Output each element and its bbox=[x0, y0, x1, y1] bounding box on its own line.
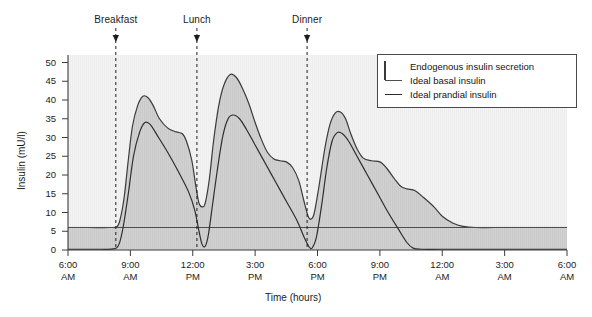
x-axis-ticks bbox=[68, 250, 567, 256]
y-tick-label: 20 bbox=[30, 169, 56, 180]
x-tick-ampm: PM bbox=[186, 271, 200, 282]
insulin-secretion-chart: Insulin (mU/l) Time (hours) 051015202530… bbox=[0, 0, 592, 317]
legend-item-endogenous: Endogenous insulin secretion bbox=[384, 60, 570, 73]
x-tick-label: 9:00PM bbox=[350, 259, 410, 282]
y-tick-label: 5 bbox=[30, 225, 56, 236]
x-tick-time: 12:00 bbox=[430, 259, 454, 270]
x-tick-label: 6:00AM bbox=[38, 259, 98, 282]
y-tick-label: 50 bbox=[30, 57, 56, 68]
x-tick-time: 6:00 bbox=[308, 259, 327, 270]
x-tick-ampm: PM bbox=[248, 271, 262, 282]
y-tick-label: 0 bbox=[30, 244, 56, 255]
y-tick-label: 30 bbox=[30, 132, 56, 143]
y-tick-label: 40 bbox=[30, 94, 56, 105]
meal-arrow-icon bbox=[304, 35, 310, 42]
y-tick-label: 15 bbox=[30, 188, 56, 199]
x-tick-ampm: PM bbox=[310, 271, 324, 282]
x-tick-time: 6:00 bbox=[558, 259, 577, 270]
x-tick-time: 12:00 bbox=[181, 259, 205, 270]
meal-arrow-icon bbox=[194, 35, 200, 42]
x-tick-label: 6:00PM bbox=[288, 259, 348, 282]
x-tick-time: 6:00 bbox=[59, 259, 78, 270]
x-tick-ampm: PM bbox=[373, 271, 387, 282]
y-tick-label: 45 bbox=[30, 75, 56, 86]
chart-legend: Endogenous insulin secretion Ideal basal… bbox=[377, 54, 577, 108]
meal-arrow-icon bbox=[113, 35, 119, 42]
x-tick-label: 3:00AM bbox=[475, 259, 535, 282]
x-tick-time: 3:00 bbox=[495, 259, 514, 270]
meal-label-breakfast: Breakfast bbox=[86, 14, 146, 25]
legend-label: Endogenous insulin secretion bbox=[410, 61, 534, 72]
legend-label: Ideal prandial insulin bbox=[410, 89, 497, 100]
x-tick-label: 12:00AM bbox=[412, 259, 472, 282]
meal-label-dinner: Dinner bbox=[277, 14, 337, 25]
x-tick-ampm: AM bbox=[123, 271, 137, 282]
legend-line-icon bbox=[384, 90, 403, 99]
legend-swatch-icon bbox=[384, 62, 403, 71]
meal-label-lunch: Lunch bbox=[167, 14, 227, 25]
legend-label: Ideal basal insulin bbox=[410, 75, 486, 86]
x-axis-title: Time (hours) bbox=[265, 292, 321, 303]
x-tick-time: 9:00 bbox=[121, 259, 140, 270]
legend-item-basal: Ideal basal insulin bbox=[384, 74, 570, 87]
x-tick-label: 6:00AM bbox=[537, 259, 592, 282]
x-tick-label: 3:00PM bbox=[225, 259, 285, 282]
y-axis-title: Insulin (mU/l) bbox=[16, 131, 27, 190]
y-axis-ticks bbox=[62, 63, 68, 251]
legend-item-prandial: Ideal prandial insulin bbox=[384, 88, 570, 101]
y-tick-label: 35 bbox=[30, 113, 56, 124]
x-tick-ampm: AM bbox=[498, 271, 512, 282]
meal-marker-arrows bbox=[113, 28, 311, 55]
x-tick-label: 9:00AM bbox=[100, 259, 160, 282]
x-tick-time: 9:00 bbox=[371, 259, 390, 270]
y-tick-label: 25 bbox=[30, 150, 56, 161]
x-tick-ampm: AM bbox=[61, 271, 75, 282]
y-tick-label: 10 bbox=[30, 207, 56, 218]
x-tick-ampm: AM bbox=[435, 271, 449, 282]
x-tick-time: 3:00 bbox=[246, 259, 265, 270]
x-tick-ampm: AM bbox=[560, 271, 574, 282]
x-tick-label: 12:00PM bbox=[163, 259, 223, 282]
legend-line-icon bbox=[384, 76, 403, 85]
